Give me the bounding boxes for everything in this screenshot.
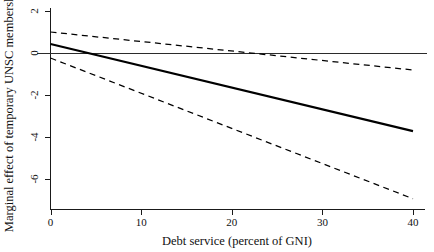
x-tick-label: 0 [48,216,54,228]
y-axis-ticks: 20-2-4-6 [28,8,51,183]
y-tick-label: -2 [28,90,40,99]
marginal-effect-figure: 20-2-4-6 010203040 Debt service (percent… [0,0,434,252]
series-marginal-effect-point-estimate [51,44,414,131]
series-lower-95-confidence-bound [51,58,414,199]
x-axis-title: Debt service (percent of GNI) [162,234,312,248]
y-tick-label: 2 [28,8,40,14]
x-tick-label: 10 [136,216,148,228]
series-upper-95-confidence-bound [51,32,414,70]
x-tick-label: 30 [317,216,329,228]
data-series-layer [37,32,427,199]
x-tick-label: 20 [226,216,238,228]
y-tick-label: -6 [28,174,40,184]
y-axis-title: Marginal effect of temporary UNSC member… [2,0,16,232]
x-tick-label: 40 [408,216,420,228]
x-axis-ticks: 010203040 [48,210,419,229]
plot-canvas: 20-2-4-6 010203040 Debt service (percent… [0,0,434,252]
y-tick-label: -4 [28,132,40,142]
